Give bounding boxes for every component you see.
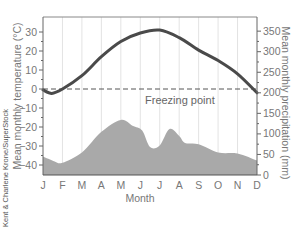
- month-label: M: [116, 179, 125, 191]
- month-label: M: [78, 179, 87, 191]
- month-label: J: [40, 179, 45, 191]
- month-label: S: [195, 179, 202, 191]
- left-tick-label: 0: [31, 83, 37, 95]
- x-axis-title: Month: [125, 192, 154, 204]
- left-axis-title: Mean monthly temperature (°C): [11, 22, 23, 169]
- month-label: J: [138, 179, 143, 191]
- right-axis-ticks: 350300250200150100500: [257, 25, 281, 181]
- right-tick-label: 250: [263, 66, 281, 78]
- month-label: O: [214, 179, 222, 191]
- right-tick-label: 0: [263, 169, 269, 181]
- precipitation-area: [43, 120, 257, 175]
- temperature-line: [43, 30, 257, 93]
- left-tick-label: 30: [25, 26, 37, 38]
- photo-credit: Kent & Charlene Krone/SuperStock: [1, 109, 10, 227]
- right-tick-label: 50: [263, 148, 275, 160]
- month-label: A: [176, 179, 183, 191]
- right-tick-label: 200: [263, 86, 281, 98]
- month-label: J: [157, 179, 162, 191]
- right-axis-title: Mean monthly precipitation (mm): [280, 27, 292, 180]
- climate-chart: Freezing point 3020100−10−20−30−40 35030…: [0, 0, 292, 229]
- right-tick-label: 300: [263, 45, 281, 57]
- right-tick-label: 350: [263, 25, 281, 37]
- freezing-point-label: Freezing point: [145, 94, 215, 106]
- month-label: D: [253, 179, 261, 191]
- x-axis-ticks: JFMAMJJASOND: [40, 179, 261, 191]
- month-label: A: [98, 179, 105, 191]
- left-tick-label: 20: [25, 45, 37, 57]
- left-tick-label: 10: [25, 64, 37, 76]
- right-tick-label: 150: [263, 107, 281, 119]
- month-label: N: [234, 179, 242, 191]
- right-tick-label: 100: [263, 127, 281, 139]
- month-label: F: [59, 179, 65, 191]
